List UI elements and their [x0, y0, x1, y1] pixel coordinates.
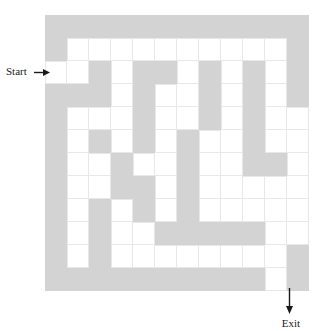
maze-open-cell: [133, 245, 155, 268]
maze-wall-cell: [67, 268, 89, 291]
maze-wall-cell: [89, 268, 111, 291]
maze-open-cell: [89, 107, 111, 130]
maze-open-cell: [221, 245, 243, 268]
maze-open-cell: [243, 199, 265, 222]
maze-wall-cell: [111, 153, 133, 176]
maze-wall-cell: [155, 268, 177, 291]
maze-open-cell: [221, 153, 243, 176]
maze-wall-cell: [177, 199, 199, 222]
maze-open-cell: [265, 199, 287, 222]
maze-wall-cell: [45, 245, 67, 268]
maze-wall-cell: [243, 268, 265, 291]
maze-open-cell: [177, 38, 199, 61]
maze-wall-cell: [177, 176, 199, 199]
maze-wall-cell: [265, 153, 287, 176]
maze-open-cell: [67, 176, 89, 199]
maze-open-cell: [89, 176, 111, 199]
maze-wall-cell: [177, 15, 199, 38]
maze-open-cell: [155, 176, 177, 199]
maze-open-cell: [243, 38, 265, 61]
exit-label: Exit: [282, 317, 300, 329]
maze-open-cell: [243, 176, 265, 199]
maze-wall-cell: [287, 245, 309, 268]
maze-open-cell: [265, 84, 287, 107]
maze-wall-cell: [45, 268, 67, 291]
maze-wall-cell: [45, 15, 67, 38]
maze-open-cell: [155, 38, 177, 61]
maze-wall-cell: [45, 38, 67, 61]
maze-open-cell: [177, 61, 199, 84]
maze-wall-cell: [287, 15, 309, 38]
maze-open-cell: [67, 153, 89, 176]
maze-open-cell: [133, 153, 155, 176]
maze-wall-cell: [133, 268, 155, 291]
maze-wall-cell: [155, 61, 177, 84]
maze-open-cell: [221, 199, 243, 222]
maze-open-cell: [287, 153, 309, 176]
exit-annotation: Exit: [268, 313, 314, 331]
maze-wall-cell: [243, 15, 265, 38]
maze-wall-cell: [221, 15, 243, 38]
maze-wall-cell: [155, 15, 177, 38]
maze-open-cell: [111, 199, 133, 222]
maze-wall-cell: [243, 84, 265, 107]
maze-wall-cell: [199, 61, 221, 84]
maze-open-cell: [287, 107, 309, 130]
maze-open-cell: [67, 38, 89, 61]
maze-open-cell: [199, 153, 221, 176]
maze-wall-cell: [221, 222, 243, 245]
maze-wall-cell: [177, 130, 199, 153]
maze-open-cell: [287, 199, 309, 222]
maze-open-cell: [67, 245, 89, 268]
maze-open-cell: [89, 38, 111, 61]
maze-open-cell: [89, 153, 111, 176]
maze-wall-cell: [89, 245, 111, 268]
maze-wall-cell: [287, 84, 309, 107]
maze-open-cell: [67, 107, 89, 130]
maze-wall-cell: [243, 153, 265, 176]
maze-open-cell: [67, 222, 89, 245]
maze-wall-cell: [89, 199, 111, 222]
maze-wall-cell: [243, 130, 265, 153]
maze-wall-cell: [199, 15, 221, 38]
maze-wall-cell: [67, 15, 89, 38]
maze-wall-cell: [133, 84, 155, 107]
maze-open-cell: [133, 222, 155, 245]
maze-open-cell: [287, 222, 309, 245]
maze-wall-cell: [67, 84, 89, 107]
maze-open-cell: [111, 38, 133, 61]
maze-open-cell: [265, 38, 287, 61]
maze-open-cell: [221, 107, 243, 130]
maze-wall-cell: [243, 107, 265, 130]
maze-open-cell: [177, 84, 199, 107]
maze-open-cell: [199, 245, 221, 268]
maze-wall-cell: [45, 176, 67, 199]
maze-wall-cell: [155, 222, 177, 245]
maze-open-cell: [155, 107, 177, 130]
maze-open-cell: [265, 61, 287, 84]
maze-wall-cell: [45, 199, 67, 222]
maze-wall-cell: [111, 176, 133, 199]
maze-open-cell: [287, 176, 309, 199]
maze-wall-cell: [89, 15, 111, 38]
maze-wall-cell: [133, 130, 155, 153]
maze-open-cell: [221, 61, 243, 84]
maze-open-cell: [199, 176, 221, 199]
maze-wall-cell: [265, 15, 287, 38]
maze-wall-cell: [89, 61, 111, 84]
maze-figure: Start Exit: [0, 0, 334, 331]
maze-open-cell: [221, 130, 243, 153]
maze-wall-cell: [133, 199, 155, 222]
maze-open-cell: [199, 130, 221, 153]
maze-wall-cell: [89, 222, 111, 245]
maze-open-cell: [67, 130, 89, 153]
maze-wall-cell: [133, 176, 155, 199]
maze-wall-cell: [111, 15, 133, 38]
maze-open-cell: [155, 84, 177, 107]
maze-open-cell: [221, 176, 243, 199]
maze-wall-cell: [287, 38, 309, 61]
maze-open-cell: [111, 107, 133, 130]
maze-open-cell: [265, 130, 287, 153]
maze-open-cell: [265, 107, 287, 130]
maze-wall-cell: [177, 153, 199, 176]
